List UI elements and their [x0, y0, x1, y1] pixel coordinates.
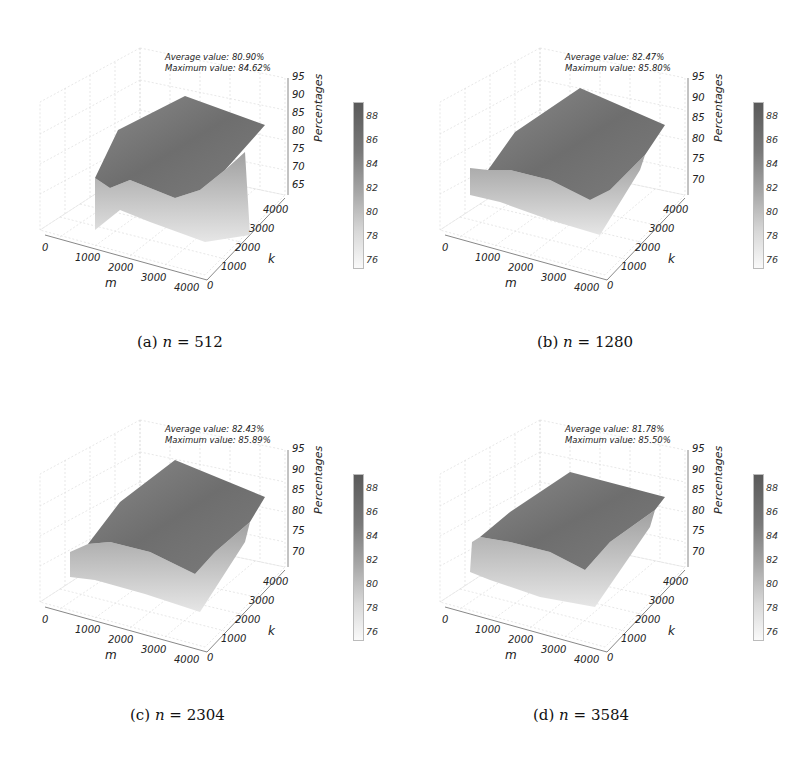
m-tick-label: 0 — [42, 614, 48, 625]
colorbar-tick-label: 86 — [766, 506, 778, 517]
caption-equals: = — [569, 706, 591, 724]
k-axis-label: k — [268, 252, 275, 266]
colorbar-tick-label: 82 — [366, 182, 378, 193]
colorbar-tick-label: 88 — [766, 482, 778, 493]
k-tick-label: 1000 — [221, 261, 246, 272]
surface-plot-svg — [400, 30, 800, 330]
average-value: Average value: 80.90% — [165, 52, 271, 63]
z-tick-label: 75 — [292, 143, 305, 154]
m-axis-line — [45, 235, 207, 280]
caption-variable: n — [559, 706, 569, 724]
colorbar-tick-label: 76 — [366, 254, 378, 265]
colorbar-tick-label: 82 — [366, 554, 378, 565]
m-tick-label: 1000 — [475, 252, 500, 263]
z-tick-label: 90 — [292, 464, 305, 475]
z-tick-label: 80 — [692, 133, 705, 144]
colorbar-tick-label: 80 — [766, 578, 778, 589]
maximum-value: Maximum value: 85.89% — [165, 435, 271, 446]
average-value: Average value: 82.43% — [165, 424, 271, 435]
maximum-value: Maximum value: 84.62% — [165, 63, 271, 74]
caption-variable: n — [155, 706, 165, 724]
z-axis-label: Percentages — [312, 446, 325, 514]
colorbar-tick-label: 76 — [366, 626, 378, 637]
caption-equals: = — [165, 706, 187, 724]
m-axis-label: m — [105, 276, 117, 290]
surface-plot-panel-b: Average value: 82.47% Maximum value: 85.… — [400, 30, 800, 330]
caption-equals: = — [172, 333, 194, 351]
caption-c: (c) n = 2304 — [130, 706, 225, 724]
colorbar-tick-label: 84 — [766, 158, 778, 169]
caption-label: (d) — [533, 706, 554, 724]
surface-plot-panel-a: Average value: 80.90% Maximum value: 84.… — [0, 30, 400, 330]
caption-value: 512 — [194, 333, 223, 351]
caption-b: (b) n = 1280 — [537, 333, 633, 351]
colorbar-tick-label: 80 — [366, 206, 378, 217]
z-tick-label: 75 — [692, 525, 705, 536]
colorbar-tick-label: 88 — [366, 110, 378, 121]
z-tick-label: 85 — [292, 107, 305, 118]
m-tick-label: 0 — [442, 242, 448, 253]
caption-value: 1280 — [595, 333, 633, 351]
k-tick-label: 1000 — [221, 633, 246, 644]
m-axis-label: m — [105, 648, 117, 662]
k-tick-label: 3000 — [649, 595, 674, 606]
z-tick-label: 80 — [292, 125, 305, 136]
colorbar-tick-label: 78 — [366, 230, 378, 241]
colorbar-tick-label: 84 — [766, 530, 778, 541]
m-tick-label: 4000 — [574, 282, 599, 293]
surface — [470, 472, 665, 607]
k-tick-label: 4000 — [663, 576, 688, 587]
m-tick-label: 0 — [42, 242, 48, 253]
k-tick-label: 4000 — [263, 204, 288, 215]
m-tick-label: 3000 — [141, 644, 166, 655]
caption-value: 2304 — [187, 706, 225, 724]
k-tick-label: 1000 — [621, 261, 646, 272]
colorbar-tick-label: 76 — [766, 254, 778, 265]
m-tick-label: 3000 — [541, 272, 566, 283]
stats-annotation: Average value: 82.43% Maximum value: 85.… — [165, 424, 271, 446]
stats-annotation: Average value: 81.78% Maximum value: 85.… — [565, 424, 671, 446]
surface — [70, 460, 265, 612]
z-tick-label: 80 — [692, 505, 705, 516]
k-tick-label: 0 — [607, 652, 613, 663]
surface — [470, 88, 665, 235]
colorbar — [753, 474, 764, 641]
stats-annotation: Average value: 80.90% Maximum value: 84.… — [165, 52, 271, 74]
m-tick-label: 0 — [442, 614, 448, 625]
z-tick-label: 70 — [292, 546, 305, 557]
colorbar — [353, 102, 364, 269]
colorbar-tick-label: 78 — [766, 602, 778, 613]
k-tick-label: 4000 — [663, 204, 688, 215]
caption-d: (d) n = 3584 — [533, 706, 629, 724]
colorbar — [753, 102, 764, 269]
k-tick-label: 2000 — [235, 614, 260, 625]
m-tick-label: 2000 — [108, 634, 133, 645]
m-axis-label: m — [505, 648, 517, 662]
z-axis-label: Percentages — [712, 74, 725, 142]
m-tick-label: 1000 — [75, 252, 100, 263]
m-tick-label: 4000 — [174, 654, 199, 665]
z-tick-label: 85 — [692, 484, 705, 495]
z-tick-label: 65 — [292, 179, 305, 190]
caption-equals: = — [573, 333, 595, 351]
colorbar-tick-label: 88 — [366, 482, 378, 493]
average-value: Average value: 82.47% — [565, 52, 671, 63]
colorbar-tick-label: 86 — [366, 506, 378, 517]
colorbar-tick-label: 88 — [766, 110, 778, 121]
k-tick-label: 4000 — [263, 576, 288, 587]
surface-plot-svg — [0, 402, 400, 702]
m-tick-label: 3000 — [141, 272, 166, 283]
caption-label: (c) — [130, 706, 150, 724]
caption-label: (a) — [137, 333, 158, 351]
colorbar — [353, 474, 364, 641]
k-tick-label: 3000 — [249, 223, 274, 234]
m-tick-label: 2000 — [108, 262, 133, 273]
m-axis-line — [445, 607, 607, 652]
colorbar-tick-label: 80 — [766, 206, 778, 217]
surface-plot-svg — [400, 402, 800, 702]
colorbar-tick-label: 78 — [366, 602, 378, 613]
k-tick-label: 3000 — [649, 223, 674, 234]
stats-annotation: Average value: 82.47% Maximum value: 85.… — [565, 52, 671, 74]
z-tick-label: 95 — [692, 443, 705, 454]
m-tick-label: 2000 — [508, 634, 533, 645]
